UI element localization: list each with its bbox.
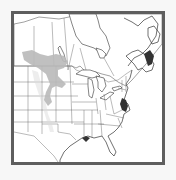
range-map <box>14 14 162 162</box>
texas-border <box>42 124 76 140</box>
lake-erie <box>100 92 114 100</box>
mexico-border <box>14 132 58 162</box>
species-range <box>22 50 68 106</box>
lake-michigan <box>88 78 94 98</box>
mississippi-delta <box>82 136 90 142</box>
lake-huron <box>96 76 106 92</box>
state-borders <box>14 66 126 138</box>
gulf-coast <box>60 136 102 162</box>
chesapeake-dark <box>120 98 128 112</box>
map-frame: Species range map — eastern North Americ… <box>11 11 165 165</box>
